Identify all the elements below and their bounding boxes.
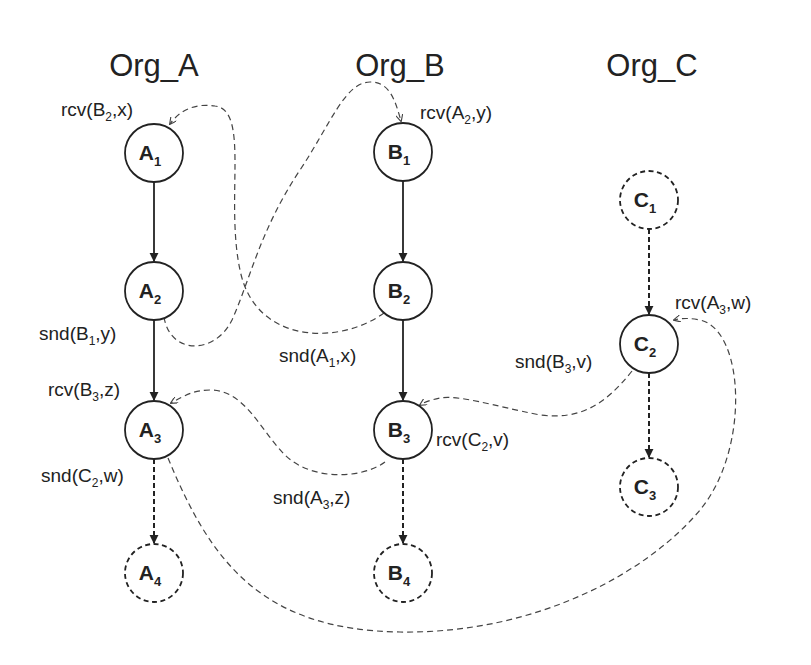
event-label-c2-rcv: rcv(A3,w) [675,292,751,317]
node-b4: B4 [374,544,432,602]
node-c3: C3 [620,458,678,516]
node-b2: B2 [374,262,432,320]
event-label-a3-snd: snd(C2,w) [41,465,124,490]
node-c1: C1 [620,171,678,229]
process-diagram: Org_A Org_B Org_C A1 A2 A3 A4 B1 B2 [0,0,811,665]
message-edge-b3-a3 [171,390,385,475]
node-a4: A4 [125,544,183,602]
event-label-a3-rcv: rcv(B3,z) [48,379,120,404]
event-label-a2-snd: snd(B1,y) [39,323,116,348]
event-label-b3-snd: snd(A3,z) [273,487,350,512]
event-label-a1-rcv: rcv(B2,x) [61,99,133,124]
event-label-b2-snd: snd(A1,x) [279,345,356,370]
org-a-title: Org_A [109,48,199,83]
node-a3: A3 [125,401,183,459]
node-c2: C2 [620,315,678,373]
message-edge-c2-b3 [420,371,632,416]
node-a2: A2 [125,262,183,320]
message-edge-b2-a1 [170,105,384,333]
event-label-b3-rcv: rcv(C2,v) [436,429,509,454]
event-label-b1-rcv: rcv(A2,y) [420,102,492,127]
node-b3: B3 [374,401,432,459]
org-b-title: Org_B [355,48,445,83]
org-c-title: Org_C [606,48,697,83]
message-edge-a2-b1 [164,82,401,346]
node-a1: A1 [125,124,183,182]
event-label-c2-snd: snd(B3,v) [515,351,592,376]
node-b1: B1 [374,123,432,181]
